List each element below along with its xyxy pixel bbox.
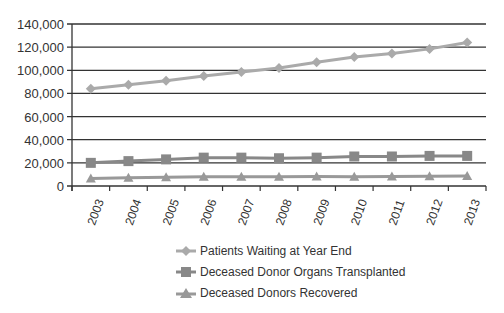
square-marker: [349, 151, 359, 161]
x-tick-label: 2003: [84, 197, 106, 227]
y-tick-label: 0: [57, 179, 64, 194]
square-marker: [123, 156, 133, 166]
y-tick-label: 120,000: [17, 40, 64, 55]
square-marker: [387, 151, 397, 161]
square-marker: [86, 158, 96, 168]
y-tick-label: 60,000: [24, 110, 64, 125]
legend-label: Deceased Donors Recovered: [200, 286, 357, 300]
x-tick-label: 2010: [348, 197, 370, 227]
y-tick-label: 20,000: [24, 156, 64, 171]
diamond-marker: [86, 84, 96, 94]
square-marker-icon: [176, 267, 196, 277]
y-tick-label: 140,000: [17, 17, 64, 32]
square-marker: [236, 153, 246, 163]
x-axis: 2003200420052006200720082009201020112012…: [72, 186, 486, 227]
diamond-marker: [274, 63, 284, 73]
diamond-marker: [387, 49, 397, 59]
x-tick-label: 2013: [461, 197, 483, 227]
triangle-marker-icon: [176, 288, 196, 298]
diamond-marker: [236, 67, 246, 77]
line-chart: 020,00040,00060,00080,000100,000120,0001…: [0, 0, 504, 240]
legend-label: Patients Waiting at Year End: [200, 244, 352, 258]
diamond-marker: [462, 38, 472, 48]
legend: Patients Waiting at Year End Deceased Do…: [176, 240, 405, 303]
diamond-marker: [425, 44, 435, 54]
diamond-marker: [312, 57, 322, 67]
diamond-marker-icon: [176, 246, 196, 256]
x-tick-label: 2009: [310, 197, 332, 227]
square-marker: [312, 153, 322, 163]
x-tick-label: 2012: [423, 197, 445, 227]
legend-item-patients-waiting: Patients Waiting at Year End: [176, 240, 405, 261]
square-marker: [462, 151, 472, 161]
square-marker: [425, 151, 435, 161]
x-tick-label: 2007: [235, 197, 257, 227]
legend-item-organs-transplanted: Deceased Donor Organs Transplanted: [176, 261, 405, 282]
x-tick-label: 2008: [273, 197, 295, 227]
diamond-marker: [161, 76, 171, 86]
legend-item-donors-recovered: Deceased Donors Recovered: [176, 282, 405, 303]
x-tick-label: 2006: [197, 197, 219, 227]
x-tick-label: 2005: [160, 197, 182, 227]
square-marker: [199, 153, 209, 163]
y-tick-label: 100,000: [17, 63, 64, 78]
data-series: [86, 38, 472, 183]
square-marker: [274, 153, 284, 163]
square-marker: [161, 154, 171, 164]
y-axis: 020,00040,00060,00080,000100,000120,0001…: [17, 17, 72, 194]
diamond-marker: [199, 71, 209, 81]
x-tick-label: 2011: [386, 198, 408, 227]
diamond-marker: [123, 80, 133, 90]
y-tick-label: 40,000: [24, 133, 64, 148]
legend-label: Deceased Donor Organs Transplanted: [200, 265, 405, 279]
y-tick-label: 80,000: [24, 86, 64, 101]
diamond-marker: [349, 52, 359, 62]
x-tick-label: 2004: [122, 197, 144, 227]
